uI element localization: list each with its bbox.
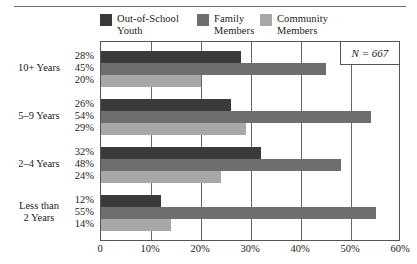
- y-axis-value-label: 20%: [66, 74, 94, 86]
- legend-label-family-members: Family Members: [214, 13, 254, 36]
- y-axis-value-group: 26%54%29%: [66, 98, 94, 134]
- chart-legend: Out-of-School Youth Family Members Commu…: [100, 13, 400, 41]
- y-axis-value-label: 32%: [66, 146, 94, 158]
- y-axis-value-label: 54%: [66, 110, 94, 122]
- bar-group: [101, 99, 399, 135]
- x-axis-tick-label: 30%: [230, 243, 270, 254]
- y-axis-value-label: 12%: [66, 194, 94, 206]
- bar-group: [101, 147, 399, 183]
- bar: [101, 207, 376, 219]
- bar: [101, 195, 161, 207]
- x-axis-tick-label: 10%: [130, 243, 170, 254]
- x-axis-tick-label: 20%: [180, 243, 220, 254]
- bar-groups: [101, 42, 399, 240]
- x-axis-tick-label: 0: [80, 243, 120, 254]
- legend-label-community-members: Community Members: [277, 13, 328, 36]
- y-axis-value-label: 14%: [66, 218, 94, 230]
- legend-swatch-family-members: [197, 14, 209, 26]
- y-axis-value-label: 24%: [66, 170, 94, 182]
- legend-item-out-of-school-youth: Out-of-School Youth: [100, 13, 179, 36]
- bar: [101, 159, 341, 171]
- plot-area: N = 667: [100, 41, 400, 241]
- y-axis-value-label: 29%: [66, 122, 94, 134]
- x-axis-tick-label: 50%: [330, 243, 370, 254]
- bar-group: [101, 195, 399, 231]
- bar: [101, 99, 231, 111]
- top-divider-rule: [14, 6, 406, 7]
- bar: [101, 111, 371, 123]
- legend-swatch-community-members: [260, 14, 272, 26]
- x-axis-tick-label: 60%: [380, 243, 417, 254]
- bar: [101, 219, 171, 231]
- x-axis-tick-labels: 010%20%30%40%50%60%: [0, 243, 417, 259]
- y-axis-value-label: 55%: [66, 206, 94, 218]
- bar: [101, 51, 241, 63]
- sample-size-annotation: N = 667: [340, 41, 400, 65]
- legend-item-family-members: Family Members: [197, 13, 254, 36]
- bar: [101, 147, 261, 159]
- y-axis-value-group: 12%55%14%: [66, 194, 94, 230]
- bar: [101, 63, 326, 75]
- bar: [101, 123, 246, 135]
- legend-label-out-of-school-youth: Out-of-School Youth: [117, 13, 179, 36]
- bar: [101, 75, 201, 87]
- y-axis-value-label: 26%: [66, 98, 94, 110]
- y-axis-value-label: 28%: [66, 50, 94, 62]
- y-axis-value-label: 45%: [66, 62, 94, 74]
- y-axis-value-group: 28%45%20%: [66, 50, 94, 86]
- y-axis-value-label: 48%: [66, 158, 94, 170]
- legend-swatch-out-of-school-youth: [100, 14, 112, 26]
- x-axis-tick-label: 40%: [280, 243, 320, 254]
- y-axis-value-group: 32%48%24%: [66, 146, 94, 182]
- legend-item-community-members: Community Members: [260, 13, 328, 36]
- bar: [101, 171, 221, 183]
